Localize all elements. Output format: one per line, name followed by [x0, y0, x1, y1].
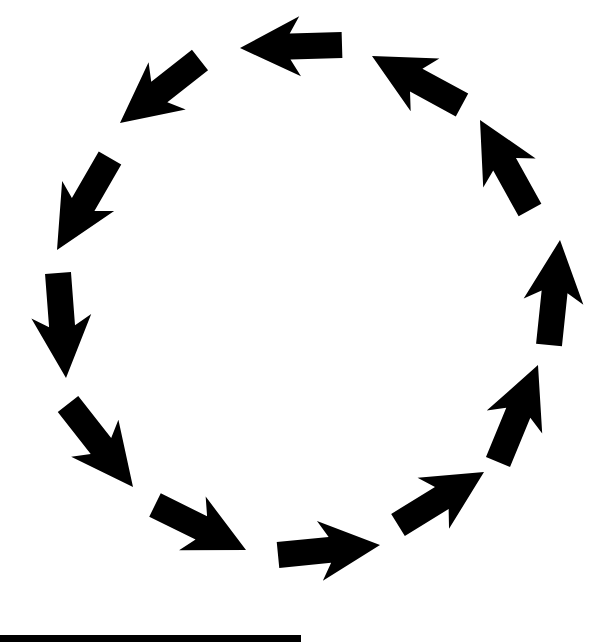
arrow-icon	[31, 143, 136, 265]
arrow-icon	[358, 30, 477, 132]
footer-bar	[0, 635, 301, 642]
arrow-icon	[101, 36, 218, 146]
arrow-icon	[44, 386, 156, 506]
arrow-icon	[519, 237, 590, 348]
arrow-icon	[275, 515, 383, 585]
cycle-diagram	[0, 0, 600, 600]
arrow-icon	[142, 478, 260, 577]
arrow-icon	[454, 105, 556, 224]
arrow-icon	[382, 446, 499, 550]
arrow-icon	[239, 15, 343, 78]
arrow-icon	[28, 271, 96, 381]
arrow-icon	[470, 354, 565, 474]
